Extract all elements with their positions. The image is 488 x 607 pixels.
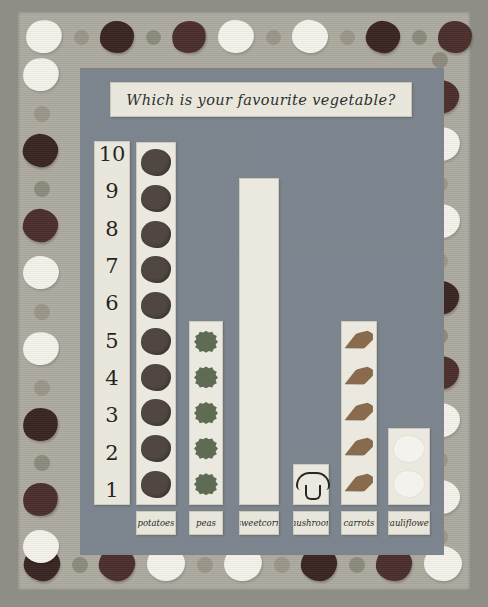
category-label-mushroom: mushroom <box>293 511 329 535</box>
carrot-stamp-icon <box>341 470 377 499</box>
bar-unit-potatoes <box>137 395 175 431</box>
bar-unit-potatoes <box>137 431 175 467</box>
border-stamp-cauli-icon <box>23 17 65 57</box>
category-label-text: sweetcorn <box>239 518 279 528</box>
category-label-sweetcorn: sweetcorn <box>239 511 279 535</box>
border-stamp-dot-icon <box>34 380 50 396</box>
bar-unit-carrots <box>342 360 376 396</box>
category-label-row: potatoespeassweetcornmushroomcarrotscaul… <box>136 511 432 537</box>
y-axis-tick-8: 8 <box>105 219 118 240</box>
bar-mushroom[interactable] <box>293 464 329 505</box>
bar-peas[interactable] <box>189 321 223 505</box>
border-stamp-dot-icon <box>34 304 50 320</box>
border-stamp-cauli-icon <box>217 19 254 53</box>
cauliflower-stamp-icon <box>394 471 424 497</box>
pea-stamp-icon <box>194 402 218 424</box>
bar-unit-peas <box>190 466 222 502</box>
mushroom-stamp-icon <box>296 472 326 498</box>
bar-unit-potatoes <box>137 323 175 359</box>
bar-unit-sweetcorn <box>240 466 278 502</box>
carrot-stamp-icon <box>341 363 377 392</box>
border-stamp-potato-icon <box>437 20 472 53</box>
potato-stamp-icon <box>141 471 171 498</box>
border-stamp-cauli-icon <box>22 255 60 290</box>
y-axis-tick-1: 1 <box>105 480 118 501</box>
bar-unit-potatoes <box>137 145 175 181</box>
carrot-stamp-icon <box>341 328 377 357</box>
carrot-stamp-icon <box>341 434 377 463</box>
cauliflower-stamp-icon <box>394 436 424 462</box>
bar-unit-peas <box>190 324 222 360</box>
border-stamp-dot-icon <box>74 30 89 45</box>
bar-unit-carrots <box>342 324 376 360</box>
bar-unit-mushroom <box>294 467 328 502</box>
border-stamp-potato-icon <box>21 405 61 443</box>
border-stamp-dot-icon <box>146 30 161 45</box>
bar-unit-sweetcorn <box>240 217 278 253</box>
category-label-text: mushroom <box>293 518 329 528</box>
potato-stamp-icon <box>141 185 171 212</box>
potato-stamp-icon <box>141 292 171 319</box>
y-axis-tick-6: 6 <box>105 293 118 314</box>
potato-stamp-icon <box>141 328 171 355</box>
bar-unit-sweetcorn <box>240 395 278 431</box>
border-stamp-dot-icon <box>432 52 448 68</box>
bar-column-potatoes <box>136 141 176 505</box>
page-title: Which is your favourite vegetable? <box>126 92 395 108</box>
pea-stamp-icon <box>194 366 218 388</box>
bar-unit-potatoes <box>137 359 175 395</box>
bar-sweetcorn[interactable] <box>239 178 279 505</box>
border-stamp-dot-icon <box>34 181 50 197</box>
bar-unit-sweetcorn <box>240 252 278 288</box>
bar-unit-sweetcorn <box>240 359 278 395</box>
y-axis-tick-3: 3 <box>105 405 118 426</box>
bar-unit-potatoes <box>137 181 175 217</box>
potato-stamp-icon <box>141 149 171 176</box>
y-axis-tick-10: 10 <box>99 144 126 165</box>
potato-stamp-icon <box>141 256 171 283</box>
bar-unit-sweetcorn <box>240 324 278 360</box>
potato-stamp-icon <box>141 221 171 248</box>
bar-column-mushroom <box>293 141 329 505</box>
potato-stamp-icon <box>141 399 171 426</box>
border-stamp-dot-icon <box>274 557 290 573</box>
bar-unit-sweetcorn <box>240 288 278 324</box>
y-axis-tick-2: 2 <box>105 443 118 464</box>
bar-unit-sweetcorn <box>240 181 278 217</box>
bar-potatoes[interactable] <box>136 142 176 505</box>
border-stamp-dot-icon <box>266 30 281 45</box>
potato-stamp-icon <box>141 364 171 391</box>
bar-unit-carrots <box>342 466 376 502</box>
bar-column-sweetcorn <box>239 141 279 505</box>
bar-unit-peas <box>190 431 222 467</box>
bar-unit-peas <box>190 360 222 396</box>
mushroom-stalk-icon <box>305 485 321 500</box>
bar-cauliflower[interactable] <box>388 428 430 505</box>
pea-stamp-icon <box>194 473 218 495</box>
bar-unit-carrots <box>342 431 376 467</box>
category-label-text: potatoes <box>138 518 175 528</box>
border-stamp-dot-icon <box>197 557 213 573</box>
bar-unit-cauliflower <box>389 467 429 503</box>
category-label-text: carrots <box>344 518 375 528</box>
potato-stamp-icon <box>141 435 171 462</box>
border-stamp-dot-icon <box>412 30 427 45</box>
category-label-cauliflower: cauliflower <box>388 511 430 535</box>
category-label-potatoes: potatoes <box>136 511 176 535</box>
border-stamp-potato-icon <box>20 206 60 245</box>
category-label-peas: peas <box>189 511 223 535</box>
vegetable-survey-poster: Which is your favourite vegetable? 10987… <box>0 0 488 607</box>
carrot-stamp-icon <box>341 399 377 428</box>
y-axis-tick-5: 5 <box>105 331 118 352</box>
border-stamp-potato-icon <box>20 480 61 519</box>
bar-carrots[interactable] <box>341 321 377 505</box>
border-stamp-potato-icon <box>363 18 403 56</box>
border-stamp-potato-icon <box>100 21 135 54</box>
border-stamp-potato-icon <box>169 18 209 57</box>
bar-unit-potatoes <box>137 466 175 502</box>
decorated-border-sheet: Which is your favourite vegetable? 10987… <box>18 12 470 590</box>
border-stamp-dot-icon <box>34 455 50 471</box>
bar-column-carrots <box>341 141 377 505</box>
border-stamp-dot-icon <box>34 106 50 122</box>
border-stamp-dot-icon <box>340 30 355 45</box>
